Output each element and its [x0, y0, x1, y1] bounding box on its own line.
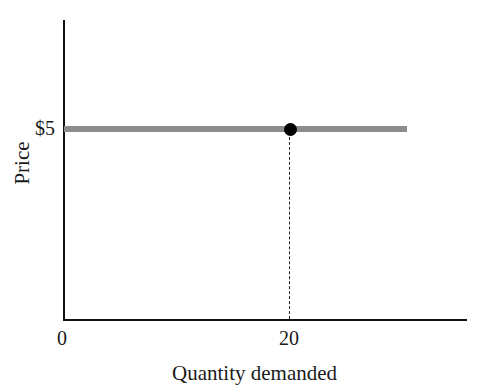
price-line	[64, 126, 407, 132]
y-axis	[63, 20, 65, 321]
y-tick-label: $5	[35, 118, 55, 138]
x-tick-label-0: 0	[57, 328, 67, 348]
dashed-drop-line	[289, 132, 290, 319]
y-axis-title: Price	[11, 133, 33, 193]
x-axis-title: Quantity demanded	[172, 362, 337, 384]
data-point-marker	[284, 123, 297, 136]
x-tick-label-20: 20	[279, 328, 299, 348]
x-axis	[63, 319, 467, 321]
